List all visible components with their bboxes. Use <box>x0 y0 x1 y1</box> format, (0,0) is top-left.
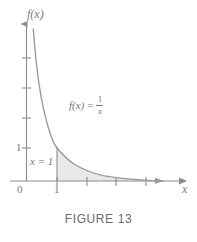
function-equation-label: f(x) = 1 x <box>69 95 103 116</box>
shaded-area-under-curve <box>57 148 165 181</box>
figure-caption: FIGURE 13 <box>0 212 197 226</box>
origin-label: 0 <box>17 184 23 195</box>
function-label-fraction: 1 x <box>96 95 103 116</box>
y-tick-label-1: 1 <box>16 142 22 153</box>
function-label-equals: = <box>87 100 93 111</box>
function-label-lhs: f(x) <box>69 100 84 111</box>
x-tick-label-1: 1 <box>54 184 60 195</box>
vertical-line-label: x = 1 <box>30 156 53 167</box>
fraction-denominator: x <box>97 107 103 116</box>
y-axis-label: f(x) <box>27 8 44 20</box>
x-axis-label: x <box>182 183 187 195</box>
figure-container: f(x) x 0 1 1 x = 1 f(x) = 1 x FIGURE 13 <box>0 0 197 242</box>
fraction-numerator: 1 <box>97 95 104 104</box>
